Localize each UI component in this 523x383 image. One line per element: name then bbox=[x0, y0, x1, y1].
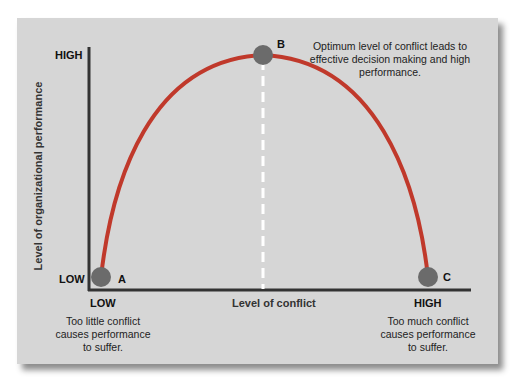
y-high-label: HIGH bbox=[55, 49, 83, 61]
optimum-note: Optimum level of conflict leads to effec… bbox=[300, 40, 480, 79]
too-much-note: Too much conflict causes performance to … bbox=[380, 315, 476, 354]
point-c-label: C bbox=[443, 271, 451, 283]
point-a-marker bbox=[91, 267, 111, 287]
too-little-note: Too little conflict causes performance t… bbox=[55, 315, 151, 354]
point-b-label: B bbox=[277, 38, 285, 50]
point-a-label: A bbox=[118, 273, 126, 285]
y-low-label: LOW bbox=[59, 273, 85, 285]
point-b-marker bbox=[253, 45, 273, 65]
x-axis-title: Level of conflict bbox=[232, 297, 316, 309]
x-low-label: LOW bbox=[90, 297, 116, 309]
x-high-label: HIGH bbox=[414, 297, 442, 309]
y-axis-title: Level of organizational performance bbox=[32, 76, 44, 276]
point-c-marker bbox=[418, 267, 438, 287]
